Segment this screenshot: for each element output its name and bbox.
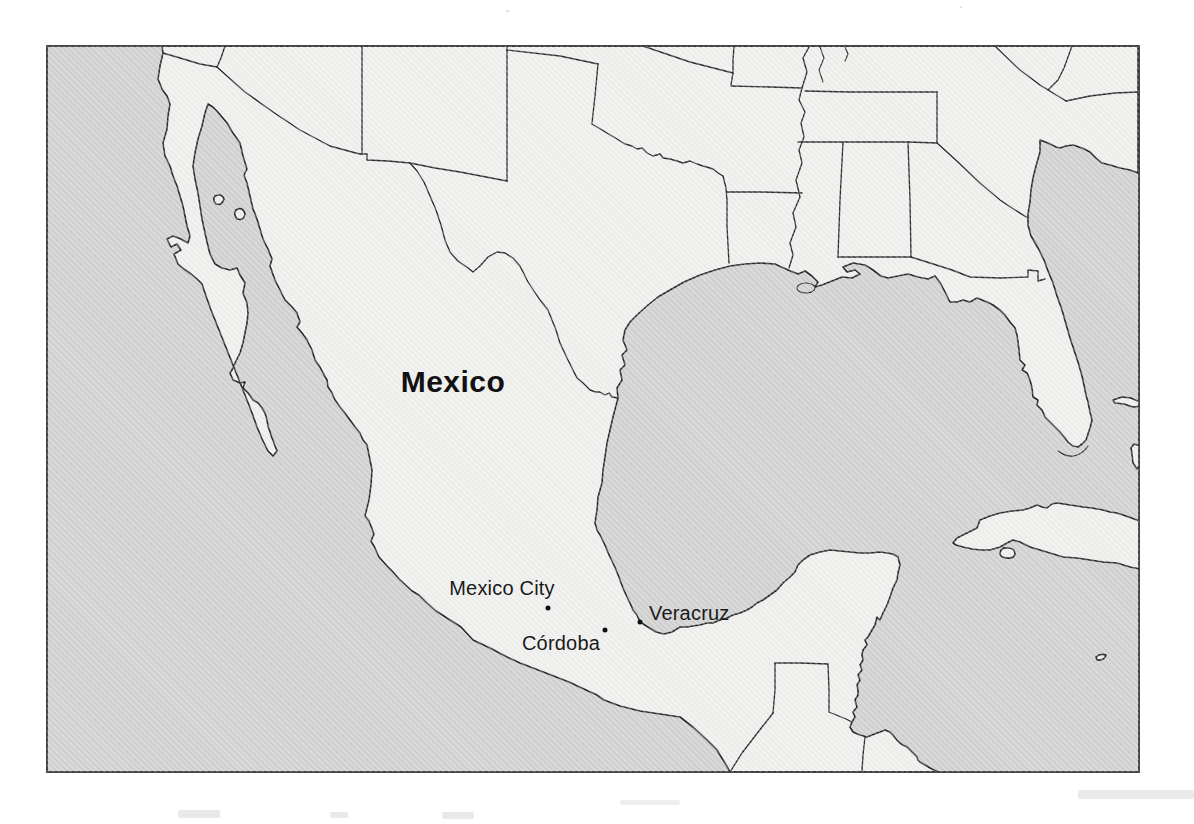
veracruz-dot (638, 620, 643, 625)
scan-speck (960, 6, 962, 8)
lake-pontchartrain (797, 283, 815, 293)
country-label-mexico: Mexico (401, 365, 506, 399)
map-figure: Mexico Mexico City Córdoba Veracruz (0, 0, 1194, 824)
gulf-of-california-island-2 (235, 209, 245, 220)
scan-artifact (1078, 790, 1194, 799)
scan-artifact (178, 810, 220, 818)
isla-juventud-island (1000, 548, 1015, 558)
map-svg (0, 0, 1194, 824)
cordoba-label: Córdoba (522, 632, 600, 655)
cordoba-dot (603, 628, 608, 633)
scan-speck (506, 10, 509, 12)
mexico-city-label: Mexico City (449, 577, 555, 600)
veracruz-label: Veracruz (649, 602, 730, 625)
gulf-of-california-island-1 (214, 195, 224, 204)
scan-artifact (330, 812, 348, 818)
mexico-city-dot (546, 606, 551, 611)
scan-artifact (442, 812, 474, 819)
scan-artifact (620, 800, 680, 805)
